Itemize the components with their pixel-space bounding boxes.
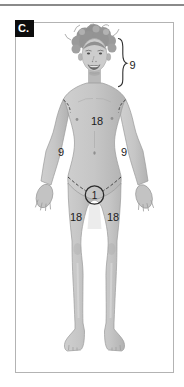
screenshot-root: 9 18 9 9 1 18 18 C.: [0, 0, 184, 387]
left-arm: [41, 99, 69, 185]
left-hand: [34, 182, 56, 209]
head-percent-label: 9: [129, 59, 135, 71]
top-divider: [0, 4, 184, 6]
left-thigh-percent-label: 18: [70, 211, 82, 223]
head-bracket: [119, 39, 127, 87]
body-art: [34, 24, 155, 351]
eye-left: [87, 52, 90, 54]
figure-panel: 9 18 9 9 1 18 18: [15, 22, 174, 373]
perineum-percent-label: 1: [92, 190, 98, 201]
right-hand: [133, 183, 155, 210]
right-thigh-percent-label: 18: [107, 211, 119, 223]
child-body-figure: 9 18 9 9 1 18 18: [16, 23, 173, 372]
eye-right: [99, 52, 102, 54]
thigh-gap-highlight: [88, 204, 102, 229]
trunk-percent-label: 18: [91, 115, 103, 127]
nipple-left: [76, 118, 79, 121]
right-knee-shade: [108, 243, 116, 255]
left-arm-percent-label: 9: [58, 146, 64, 158]
nipple-right: [111, 117, 114, 120]
left-knee-shade: [74, 243, 82, 255]
navel: [93, 151, 95, 155]
right-arm: [121, 99, 149, 185]
right-arm-percent-label: 9: [121, 146, 127, 158]
panel-label: C.: [15, 20, 34, 37]
